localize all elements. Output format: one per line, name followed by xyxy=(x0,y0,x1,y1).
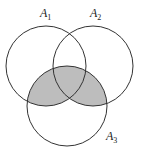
set-a1-label: A1 xyxy=(39,6,51,22)
set-a3-label: A3 xyxy=(105,129,117,145)
set-a2-label: A2 xyxy=(89,6,101,22)
venn-diagram: A1 A2 A3 xyxy=(0,0,141,154)
